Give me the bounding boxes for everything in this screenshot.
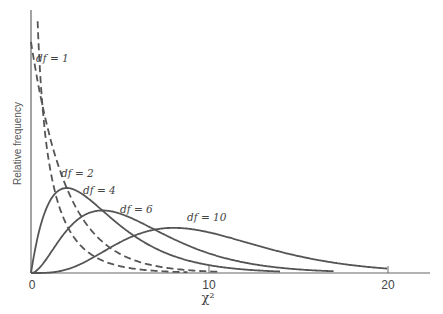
df6-label: df = 6 [120,203,153,215]
chi-square-chart [0,0,443,314]
curves [31,21,387,273]
df10-label: df = 10 [187,211,226,223]
y-axis-label: Relative frequency [12,89,23,199]
x-tick-label-0: 0 [29,278,36,292]
df2-label: df = 2 [61,167,94,179]
df4-label: df = 4 [83,184,116,196]
df1-label: df = 1 [36,52,69,64]
x-axis-label: χ² [201,290,214,305]
x-tick-label-20: 20 [381,278,394,292]
axes [31,10,430,273]
curve-df2 [31,42,219,272]
